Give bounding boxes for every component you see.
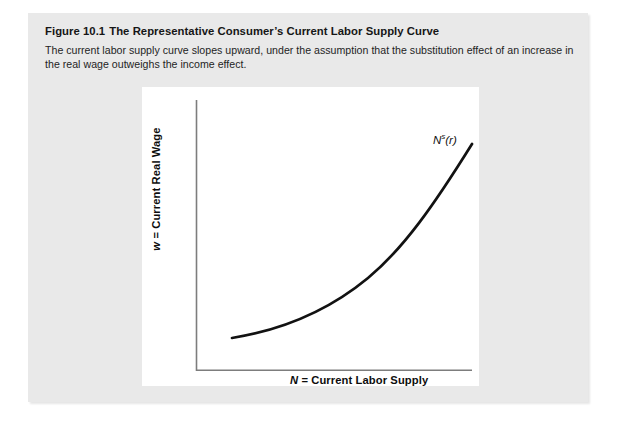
figure-caption-text: The current labor supply curve slopes up…: [45, 43, 575, 71]
curve-label-argument: (r): [445, 133, 457, 146]
y-axis-text: Current Real Wage: [150, 127, 162, 228]
y-axis-label: w = Current Real Wage: [150, 89, 162, 289]
x-axis-equals: =: [298, 374, 311, 386]
figure-title-text: The Representative Consumer’s Current La…: [109, 25, 439, 37]
figure-number: Figure 10.1: [45, 25, 105, 37]
figure-card: Figure 10.1The Representative Consumer’s…: [28, 13, 588, 402]
figure-title: Figure 10.1The Representative Consumer’s…: [45, 24, 575, 39]
labor-supply-chart: [142, 87, 479, 386]
labor-supply-curve: [232, 144, 472, 338]
chart-panel: w = Current Real Wage N = Current Labor …: [142, 87, 479, 386]
y-axis-variable: w: [150, 242, 162, 251]
x-axis-text: Current Labor Supply: [311, 374, 428, 386]
figure-caption-block: Figure 10.1The Representative Consumer’s…: [45, 24, 575, 71]
x-axis-label: N = Current Labor Supply: [290, 374, 428, 386]
y-axis-equals: =: [150, 229, 162, 242]
curve-label: Ns(r): [433, 132, 457, 146]
x-axis-variable: N: [290, 374, 298, 386]
